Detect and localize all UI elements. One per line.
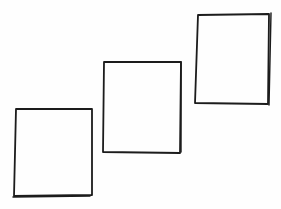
- box-3: [195, 13, 271, 105]
- sketch-drawing: [0, 0, 281, 209]
- box-1: [13, 109, 92, 197]
- box-2: [103, 62, 181, 153]
- box-1-outline: [14, 109, 92, 196]
- box-3-outline: [195, 14, 269, 104]
- sketch-canvas: [0, 0, 281, 209]
- box-2-outline: [103, 62, 181, 153]
- box-1-overstroke: [13, 196, 90, 197]
- shapes-layer: [13, 13, 271, 197]
